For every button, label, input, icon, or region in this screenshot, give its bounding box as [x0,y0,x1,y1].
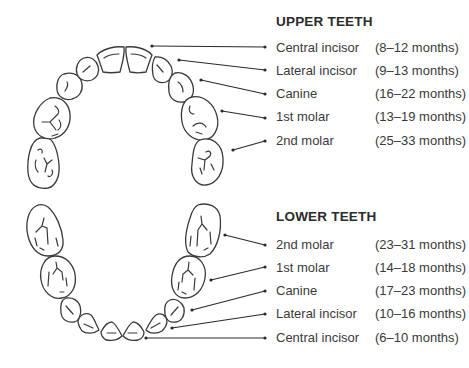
eruption-months: (13–19 months) [375,108,466,126]
lower-jaw [27,204,221,340]
eruption-months: (17–23 months) [375,282,466,300]
upper-jaw [28,47,223,189]
upper-right-central-incisor [126,47,152,73]
upper-left-lateral-incisor [76,57,98,80]
lower-left-lateral-incisor [78,314,99,333]
eruption-months: (23–31 months) [375,236,466,254]
tooth-name: Central incisor [276,39,359,57]
upper-teeth-title: UPPER TEETH [276,14,373,29]
lower-teeth-title: LOWER TEETH [276,209,376,224]
eruption-months: (25–33 months) [375,132,466,150]
tooth-name: Lateral incisor [276,305,357,323]
tooth-name: Lateral incisor [276,62,357,80]
upper-right-1st-molar [181,97,217,140]
eruption-months: (16–22 months) [375,85,466,103]
upper-right-2nd-molar [192,139,223,185]
upper-left-1st-molar [34,98,70,139]
eruption-months: (6–10 months) [375,329,459,347]
eruption-months: (8–12 months) [375,39,459,57]
tooth-name: 2nd molar [276,132,334,150]
tooth-name: 1st molar [276,108,329,126]
lower-left-1st-molar [41,256,76,298]
lower-right-2nd-molar [186,204,221,257]
lower-right-central-incisor [123,322,144,340]
tooth-name: 2nd molar [276,236,334,254]
upper-left-central-incisor [97,47,124,73]
lower-left-canine [61,298,81,322]
eruption-months: (9–13 months) [375,62,459,80]
lower-right-lateral-incisor [146,314,167,333]
lower-right-canine [165,299,185,322]
tooth-name: Canine [276,85,317,103]
tooth-name: Canine [276,282,317,300]
tooth-name: 1st molar [276,259,329,277]
upper-left-2nd-molar [28,138,59,188]
eruption-months: (10–16 months) [375,305,466,323]
lower-right-1st-molar [172,256,206,298]
lower-left-central-incisor [101,322,122,340]
lower-left-2nd-molar [27,205,63,256]
eruption-months: (14–18 months) [375,259,466,277]
tooth-name: Central incisor [276,329,359,347]
